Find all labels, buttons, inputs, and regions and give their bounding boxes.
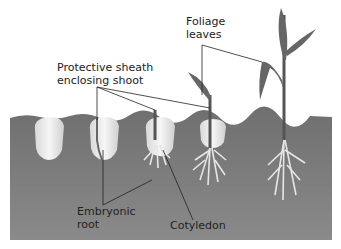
label-foliage-leaves: Foliage leaves xyxy=(186,15,225,41)
seed-stage-2 xyxy=(90,117,119,160)
seed-stage-1 xyxy=(35,117,64,160)
germination-diagram xyxy=(0,0,341,249)
label-embryonic-root: Embryonic root xyxy=(77,205,136,231)
label-protective-sheath: Protective sheath enclosing shoot xyxy=(57,61,153,87)
label-cotyledon: Cotyledon xyxy=(170,219,226,232)
